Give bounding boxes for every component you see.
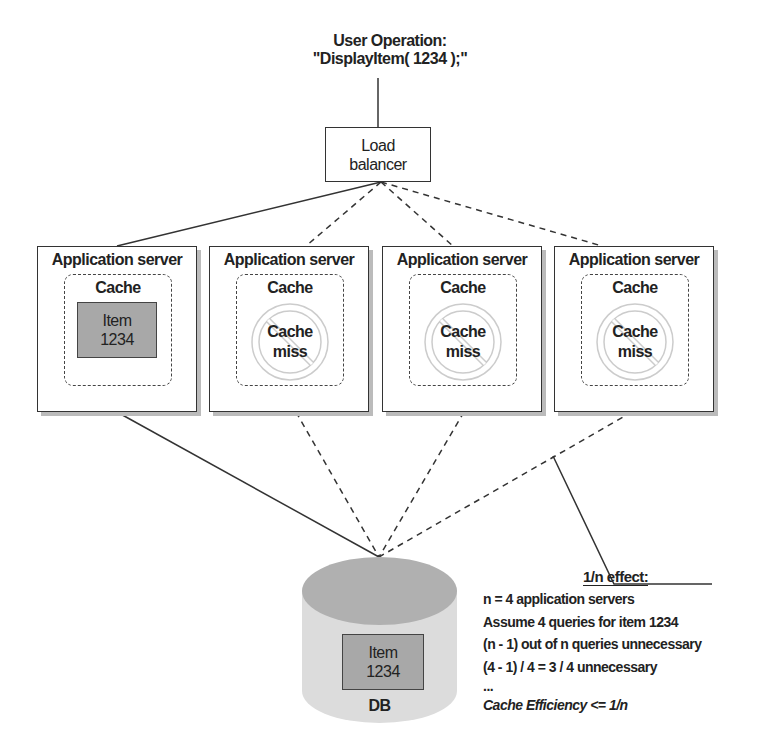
item-line1: Item	[100, 311, 134, 330]
app-server-title: Application server	[38, 251, 196, 269]
note-line: Assume 4 queries for item 1234	[483, 611, 702, 634]
connector-server3-to-db	[379, 412, 464, 557]
user-operation-line1: User Operation:	[290, 32, 490, 50]
app-server-4: Application server Cache Cache miss	[554, 246, 714, 412]
load-balancer-line1: Load	[349, 136, 406, 155]
app-server-1: Application server Cache Item 1234	[37, 246, 197, 412]
connector-lb-to-server1	[117, 182, 381, 246]
cache-region: Cache Cache miss	[581, 274, 689, 386]
miss-line2: miss	[595, 342, 675, 362]
db-item: Item 1234	[342, 634, 424, 690]
db-label: DB	[302, 697, 457, 715]
note-conclusion: Cache Efficiency <= 1/n	[483, 694, 702, 717]
cache-label: Cache	[582, 279, 688, 297]
cache-label: Cache	[65, 279, 171, 297]
cache-region: Cache Item 1234	[64, 274, 172, 386]
connector-server1-to-db	[117, 412, 379, 557]
effect-heading: 1/n effect:	[583, 568, 648, 586]
load-balancer-line2: balancer	[349, 155, 406, 174]
cache-label: Cache	[237, 279, 343, 297]
cache-miss-indicator: Cache miss	[250, 302, 330, 382]
cached-item: Item 1234	[77, 302, 157, 358]
note-line: (4 - 1) / 4 = 3 / 4 unnecessary	[483, 656, 702, 679]
app-server-title: Application server	[210, 251, 368, 269]
cache-label: Cache	[410, 279, 516, 297]
effect-notes: n = 4 application servers Assume 4 queri…	[483, 588, 702, 717]
cache-region: Cache Cache miss	[409, 274, 517, 386]
miss-line2: miss	[250, 342, 330, 362]
note-line: n = 4 application servers	[483, 588, 702, 611]
connector-server2-to-db	[296, 412, 379, 557]
user-operation-label: User Operation: "DisplayItem( 1234 );"	[290, 32, 490, 68]
load-balancer-box: Load balancer	[325, 127, 431, 182]
miss-line1: Cache	[423, 322, 503, 342]
cache-region: Cache Cache miss	[236, 274, 344, 386]
miss-line1: Cache	[250, 322, 330, 342]
cache-miss-indicator: Cache miss	[595, 302, 675, 382]
db-item-line2: 1234	[366, 662, 400, 681]
app-server-2: Application server Cache Cache miss	[209, 246, 369, 412]
app-server-title: Application server	[555, 251, 713, 269]
connector-server4-to-db	[379, 412, 632, 557]
user-operation-line2: "DisplayItem( 1234 );"	[290, 50, 490, 68]
note-line: (n - 1) out of n queries unnecessary	[483, 633, 702, 656]
connector-lb-to-server4	[381, 182, 602, 246]
annotation-leader	[553, 456, 712, 584]
app-server-3: Application server Cache Cache miss	[382, 246, 542, 412]
cache-miss-indicator: Cache miss	[423, 302, 503, 382]
miss-line2: miss	[423, 342, 503, 362]
note-line: ...	[483, 678, 702, 694]
item-line2: 1234	[100, 330, 134, 349]
db-item-line1: Item	[366, 643, 400, 662]
database-cylinder: Item 1234 DB	[302, 557, 457, 723]
connector-lb-to-server3	[381, 182, 453, 246]
miss-line1: Cache	[595, 322, 675, 342]
app-server-title: Application server	[383, 251, 541, 269]
